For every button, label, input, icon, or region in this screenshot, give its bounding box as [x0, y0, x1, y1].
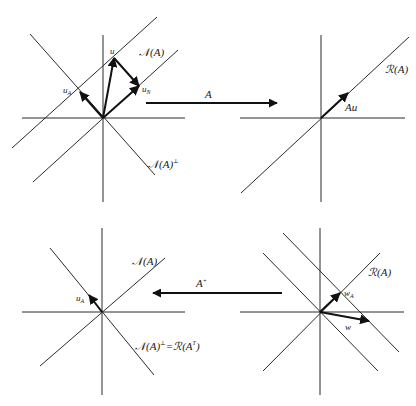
null-space-perp-line: [30, 34, 155, 175]
label-null-space: 𝒩(A): [139, 46, 164, 59]
panel-bottom-left-domain: 𝒩(A) uA 𝒩(A)⊥=ℛ(AT): [22, 228, 200, 395]
label-u: u: [110, 46, 115, 56]
panel-bottom-right-range: ℛ(A) wA w: [240, 228, 404, 395]
vector-u-A: [80, 92, 103, 118]
mapping-arrow-A-plus: A+: [153, 277, 282, 293]
label-range: ℛ(A): [368, 266, 391, 279]
label-A-plus: A+: [195, 277, 207, 289]
label-null-perp-equals-range-transpose: 𝒩(A)⊥=ℛ(AT): [135, 340, 200, 353]
label-A: A: [204, 88, 212, 100]
label-range: ℛ(A): [385, 63, 408, 76]
label-u-A: uA: [76, 293, 85, 304]
panel-top-left-domain: u uA uN 𝒩(A) 𝒩(A)⊥: [12, 17, 185, 202]
projection-segment: [114, 58, 139, 86]
panel-top-right-range: ℛ(A) Au: [240, 35, 409, 202]
mapping-arrow-A: A: [146, 88, 277, 103]
vector-u-A: [89, 295, 102, 312]
label-Au: Au: [344, 101, 358, 113]
label-u-N: uN: [142, 84, 152, 95]
vector-Au: [321, 93, 348, 118]
label-u-A: uA: [63, 85, 72, 96]
label-w-A: wA: [344, 288, 354, 299]
label-null-space: 𝒩(A): [132, 255, 157, 268]
label-w: w: [345, 322, 351, 332]
vector-w-A: [320, 293, 340, 312]
label-null-space-perp: 𝒩(A)⊥: [148, 158, 179, 171]
four-subspaces-diagram: u uA uN 𝒩(A) 𝒩(A)⊥ A ℛ(A) Au 𝒩(A) uA 𝒩(A…: [0, 0, 416, 406]
affine-line-through-w: [283, 233, 399, 352]
